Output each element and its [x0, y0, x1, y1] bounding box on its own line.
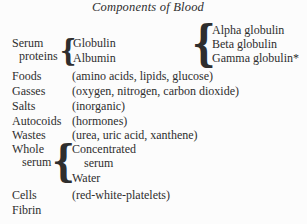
whole-serum-item-water: Water	[72, 171, 100, 185]
whole-serum-label-line1: Whole	[12, 142, 44, 156]
row-label-wastes: Wastes	[12, 128, 46, 142]
whole-serum-label-line2: serum	[22, 155, 51, 169]
globulin-alpha: Alpha globulin	[212, 23, 284, 37]
serum-proteins-label-line2: proteins	[19, 49, 58, 63]
row-label-salts: Salts	[12, 99, 35, 113]
components-of-blood-diagram: Components of Blood Serum proteins { Glo…	[0, 0, 307, 224]
globulin-gamma: Gamma globulin*	[212, 51, 299, 65]
row-label-gasses: Gasses	[12, 84, 45, 98]
globulin-beta: Beta globulin	[212, 37, 277, 51]
row-label-foods: Foods	[12, 69, 41, 83]
serum-proteins-label-line1: Serum	[12, 36, 43, 50]
diagram-title: Components of Blood	[0, 0, 296, 14]
row-value-cells: (red-white-platelets)	[72, 188, 170, 202]
serum-proteins-item-albumin: Albumin	[73, 51, 116, 65]
row-value-autocoids: (hormones)	[72, 114, 127, 128]
row-label-autocoids: Autocoids	[12, 114, 61, 128]
row-value-gasses: (oxygen, nitrogen, carbon dioxide)	[72, 84, 239, 98]
serum-proteins-item-globulin: Globulin	[73, 36, 116, 50]
row-value-wastes: (urea, uric acid, xanthene)	[72, 128, 198, 142]
whole-serum-item-concentrated: Concentrated	[72, 142, 136, 156]
whole-serum-item-concentrated-line2: serum	[84, 156, 113, 170]
row-value-foods: (amino acids, lipids, glucose)	[72, 69, 213, 83]
row-label-cells: Cells	[12, 188, 37, 202]
row-label-fibrin: Fibrin	[12, 203, 41, 217]
row-value-salts: (inorganic)	[72, 99, 125, 113]
